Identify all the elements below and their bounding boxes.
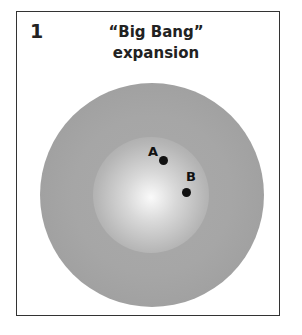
point-a-label: A: [148, 144, 158, 159]
title-line-1: “Big Bang”: [100, 22, 212, 43]
title-line-2: expansion: [100, 43, 212, 64]
panel-title: “Big Bang” expansion: [100, 22, 212, 64]
panel-number: 1: [30, 20, 43, 42]
point-b-label: B: [186, 169, 196, 184]
point-a-dot: [159, 156, 168, 165]
point-b-dot: [182, 188, 191, 197]
